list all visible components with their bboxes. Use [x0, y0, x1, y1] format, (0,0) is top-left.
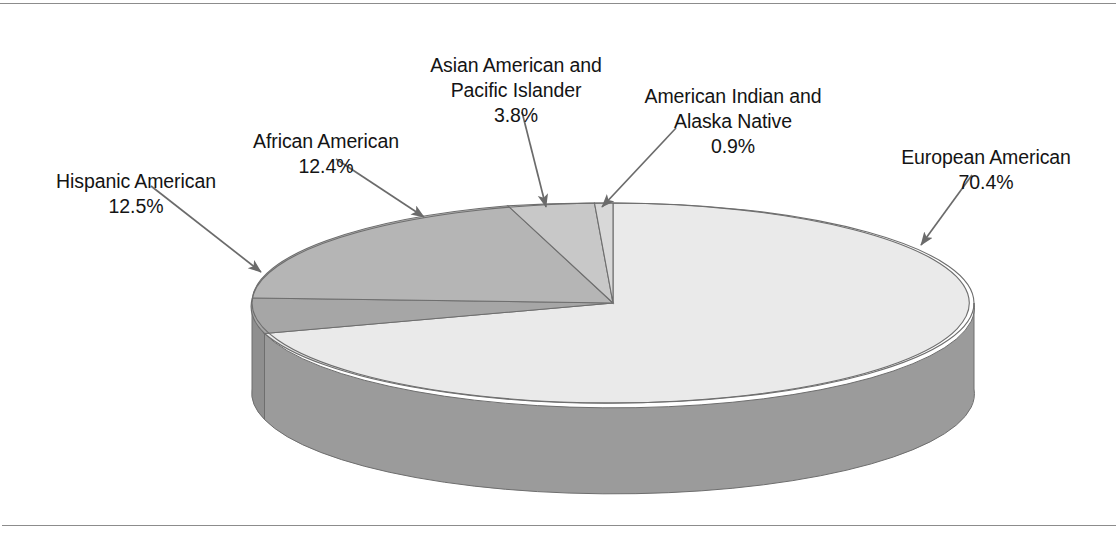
callout-name-american-indian-alaska-native: American Indian and Alaska Native [645, 85, 822, 132]
callout-value-asian-american-pacific-islander: 3.8% [418, 103, 614, 128]
callout-name-african-american: African American [253, 130, 399, 152]
callout-value-african-american: 12.4% [240, 154, 412, 179]
callout-label-european-american: European American 70.4% [876, 120, 1096, 220]
pie-chart-figure: Hispanic American 12.5% African American… [0, 0, 1116, 540]
callout-label-hispanic-american: Hispanic American 12.5% [38, 144, 234, 244]
callout-label-asian-american-pacific-islander: Asian American and Pacific Islander 3.8% [418, 28, 614, 153]
callout-label-american-indian-alaska-native: American Indian and Alaska Native 0.9% [630, 59, 836, 184]
callout-name-european-american: European American [901, 146, 1071, 168]
callout-value-hispanic-american: 12.5% [38, 194, 234, 219]
callout-name-hispanic-american: Hispanic American [56, 170, 216, 192]
pie-top-slices [251, 203, 969, 403]
callout-value-american-indian-alaska-native: 0.9% [630, 134, 836, 159]
callout-label-african-american: African American 12.4% [240, 104, 412, 204]
callout-value-european-american: 70.4% [876, 170, 1096, 195]
callout-name-asian-american-pacific-islander: Asian American and Pacific Islander [430, 54, 602, 101]
